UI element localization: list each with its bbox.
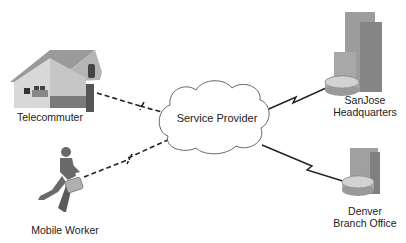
building-router-icon: [342, 148, 380, 196]
sanjose-serial-link: [262, 88, 326, 112]
house-icon: [10, 50, 102, 112]
telecommuter-label: Telecommuter: [10, 111, 90, 124]
mobile-worker-dashed-link: [84, 138, 172, 177]
denver-serial-link: [262, 145, 346, 182]
building-router-icon: [325, 12, 382, 96]
cloud-label: Service Provider: [174, 112, 260, 125]
sanjose-label-line2: Headquarters: [330, 106, 400, 119]
running-person-icon: [38, 147, 83, 212]
mobile-worker-label: Mobile Worker: [20, 224, 110, 237]
denver-label-line2: Branch Office: [330, 217, 400, 230]
